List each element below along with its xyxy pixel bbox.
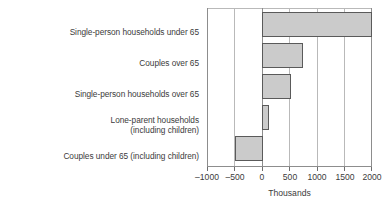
category-label-1: Couples over 65 (0, 58, 199, 68)
tick-label-1500: 1500 (335, 172, 354, 183)
category-label-0: Single-person households under 65 (0, 27, 199, 37)
tick-label-zero: 0 (260, 172, 265, 183)
tick-label-500: 500 (283, 172, 297, 183)
bar-lone-parent-households (262, 105, 269, 130)
category-axis-labels: Single-person households under 65 Couple… (0, 8, 203, 167)
bar-single-person-over-65 (262, 74, 291, 99)
tick-mark-1000 (317, 167, 318, 171)
gridline-neg1000 (207, 8, 208, 167)
category-label-2: Single-person households over 65 (0, 89, 199, 99)
plot-area (207, 8, 372, 167)
category-label-0-line1: Single-person households under 65 (70, 27, 199, 37)
category-label-3-line1: Lone-parent households (0, 115, 199, 125)
category-label-4-line1: Couples under 65 (including children) (63, 151, 199, 161)
category-label-2-line1: Single-person households over 65 (75, 89, 199, 99)
bar-couples-under-65 (235, 136, 263, 161)
tick-label-neg500: –500 (225, 172, 244, 183)
category-label-3: Lone-parent households (including childr… (0, 115, 199, 135)
tick-mark-2000 (371, 167, 372, 171)
x-axis-title: Thousands (207, 188, 372, 199)
bar-single-person-under-65 (262, 12, 372, 37)
tick-mark-500 (289, 167, 290, 171)
tick-label-neg1000: –1000 (195, 172, 219, 183)
bar-chart: Single-person households under 65 Couple… (0, 0, 389, 211)
tick-label-1000: 1000 (307, 172, 326, 183)
tick-mark-neg500 (234, 167, 235, 171)
tick-mark-zero (262, 167, 263, 171)
bar-couples-over-65 (262, 43, 303, 68)
tick-label-2000: 2000 (362, 172, 381, 183)
category-label-4: Couples under 65 (including children) (0, 151, 199, 161)
tick-mark-1500 (344, 167, 345, 171)
category-label-3-line2: (including children) (0, 125, 199, 135)
category-label-1-line1: Couples over 65 (139, 58, 199, 68)
tick-mark-neg1000 (207, 167, 208, 171)
